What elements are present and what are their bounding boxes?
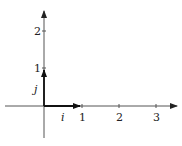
x-tick-label-3: 3 bbox=[153, 111, 160, 124]
vector-i-label: i bbox=[61, 111, 65, 124]
y-tick-label-1: 1 bbox=[34, 62, 41, 75]
diagram-canvas: 1 2 3 1 2 i j bbox=[0, 0, 182, 146]
axes-diagram: 1 2 3 1 2 i j bbox=[0, 0, 182, 146]
y-tick-label-2: 2 bbox=[34, 25, 41, 38]
vector-j-label: j bbox=[31, 83, 38, 96]
x-tick-label-1: 1 bbox=[79, 111, 86, 124]
x-tick-label-2: 2 bbox=[116, 111, 123, 124]
